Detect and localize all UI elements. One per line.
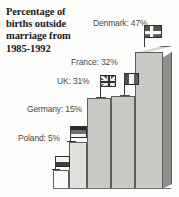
label-poland: Poland: 5% xyxy=(18,133,60,143)
baseline xyxy=(53,188,171,189)
label-germany: Germany: 15% xyxy=(27,104,82,114)
bar-denmark xyxy=(135,52,163,189)
plot-area: Denmark: 47% France: 32% UK: 31% Germany… xyxy=(0,0,179,197)
poland-flag-pole xyxy=(55,156,56,170)
uk-flag-icon xyxy=(100,75,116,87)
germany-flag-stand xyxy=(67,141,76,142)
bar-france xyxy=(111,96,135,189)
bar-side-denmark xyxy=(162,52,172,189)
denmark-flag-pole xyxy=(144,25,145,47)
uk-flag-pole xyxy=(100,75,101,98)
bar-germany xyxy=(69,142,87,189)
bar-uk xyxy=(87,98,111,189)
germany-flag-icon xyxy=(70,126,87,138)
poland-flag-stand xyxy=(52,169,60,170)
france-flag-pole xyxy=(124,73,125,96)
bar-poland xyxy=(53,170,69,189)
label-france: France: 32% xyxy=(71,57,118,67)
poland-flag-icon xyxy=(55,156,70,167)
germany-flag-pole xyxy=(70,126,71,142)
france-flag-icon xyxy=(124,73,139,85)
bar-chart-figure: Percentage of births outside marriage fr… xyxy=(0,0,179,197)
uk-flag-stand xyxy=(96,97,106,98)
france-flag-stand xyxy=(120,95,130,96)
label-denmark: Denmark: 47% xyxy=(93,18,147,28)
label-uk: UK: 31% xyxy=(57,76,90,86)
